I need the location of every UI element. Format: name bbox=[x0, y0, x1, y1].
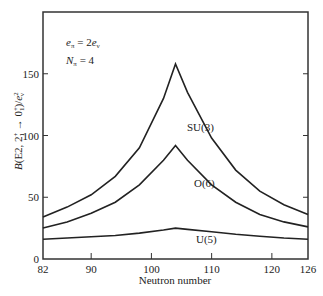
y-tick-label: 50 bbox=[28, 191, 40, 203]
x-tick-label: 82 bbox=[38, 263, 49, 275]
x-tick-label: 126 bbox=[300, 263, 317, 275]
label-u5: U(5) bbox=[196, 233, 217, 246]
annotation-charge-ratio: eπ = 2eν bbox=[66, 36, 100, 50]
label-su3: SU(3) bbox=[187, 121, 214, 134]
y-axis-ticks: 050100150 bbox=[23, 68, 309, 265]
label-o6: O(6) bbox=[194, 177, 215, 190]
x-tick-label: 120 bbox=[264, 263, 281, 275]
x-axis-title: Neutron number bbox=[139, 274, 212, 286]
x-axis-ticks: 8290100110120126 bbox=[38, 253, 317, 275]
plot-frame bbox=[43, 12, 308, 259]
x-tick-label: 90 bbox=[86, 263, 98, 275]
y-axis-title: B(E2, 2+1 → 0+1)/e2ν bbox=[12, 92, 26, 170]
y-tick-label: 150 bbox=[23, 68, 40, 80]
curve-u5 bbox=[43, 228, 308, 239]
curves bbox=[43, 64, 308, 239]
curve-su3 bbox=[43, 64, 308, 217]
chart: 050100150 8290100110120126 eπ = 2eν Nπ =… bbox=[0, 0, 323, 296]
curve-o6 bbox=[43, 145, 308, 228]
annotation-boson-number: Nπ = 4 bbox=[65, 54, 95, 68]
